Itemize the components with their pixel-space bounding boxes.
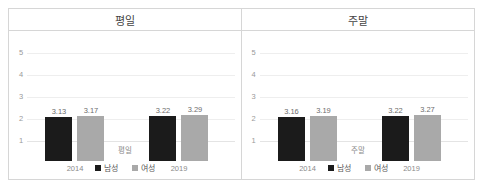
legend-label-female: 여성 xyxy=(374,162,388,173)
legend-item-female[interactable]: 여성 xyxy=(365,162,388,173)
y-tick-3: 3 xyxy=(19,93,23,101)
panel-header-label: 주말 xyxy=(348,12,368,28)
bars-2014: 3.16 3.19 xyxy=(276,31,340,161)
legend-weekend: 남성 여성 xyxy=(242,162,475,173)
bar-label-female-2019: 3.29 xyxy=(175,106,215,114)
legend-swatch-male-icon xyxy=(95,165,101,171)
bar-groups-weekday: 3.13 3.17 2014 3.22 3.29 2019 xyxy=(27,31,235,179)
bar-group-2014: 3.13 3.17 2014 xyxy=(43,31,107,179)
y-tick-4: 4 xyxy=(19,71,23,79)
plot-area-weekend: 5 4 3 2 1 3.16 3.19 2014 xyxy=(242,31,475,179)
y-tick-5: 5 xyxy=(252,49,256,57)
legend-swatch-female-icon xyxy=(365,165,371,171)
legend-label-male: 남성 xyxy=(337,162,351,173)
bars-2019: 3.22 3.29 xyxy=(147,31,211,161)
bar-label-female-2014: 3.19 xyxy=(304,107,344,115)
y-tick-5: 5 xyxy=(19,49,23,57)
legend-weekday: 남성 여성 xyxy=(9,162,241,173)
x-axis-title-weekday: 평일 xyxy=(9,144,241,155)
legend-swatch-male-icon xyxy=(328,165,334,171)
bar-label-female-2014: 3.17 xyxy=(71,107,111,115)
legend-label-female: 여성 xyxy=(141,162,155,173)
bar-group-2019: 3.22 3.29 2019 xyxy=(147,31,211,179)
bars-2014: 3.13 3.17 xyxy=(43,31,107,161)
chart-table-frame: 평일 5 4 3 2 1 3.13 3.1 xyxy=(8,8,475,180)
chart-panel-weekday: 평일 5 4 3 2 1 3.13 3.1 xyxy=(9,9,242,179)
bar-groups-weekend: 3.16 3.19 2014 3.22 3.27 2019 xyxy=(260,31,469,179)
legend-item-female[interactable]: 여성 xyxy=(132,162,155,173)
y-tick-2: 2 xyxy=(19,115,23,123)
bar-label-female-2019: 3.27 xyxy=(408,106,448,114)
bar-group-2014: 3.16 3.19 2014 xyxy=(276,31,340,179)
y-tick-4: 4 xyxy=(252,71,256,79)
y-tick-2: 2 xyxy=(252,115,256,123)
legend-swatch-female-icon xyxy=(132,165,138,171)
legend-label-male: 남성 xyxy=(104,162,118,173)
panel-header-weekend: 주말 xyxy=(242,9,475,31)
chart-panel-weekend: 주말 5 4 3 2 1 3.16 3.1 xyxy=(242,9,475,179)
y-tick-3: 3 xyxy=(252,93,256,101)
legend-item-male[interactable]: 남성 xyxy=(95,162,118,173)
panel-header-weekday: 평일 xyxy=(9,9,241,31)
bar-group-2019: 3.22 3.27 2019 xyxy=(380,31,444,179)
x-axis-title-weekend: 주말 xyxy=(242,144,475,155)
bars-2019: 3.22 3.27 xyxy=(380,31,444,161)
panel-header-label: 평일 xyxy=(115,12,135,28)
plot-area-weekday: 5 4 3 2 1 3.13 3.17 2014 xyxy=(9,31,241,179)
legend-item-male[interactable]: 남성 xyxy=(328,162,351,173)
